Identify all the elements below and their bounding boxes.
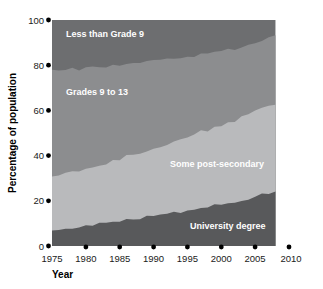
y-tick-label-100: 100 (28, 15, 44, 26)
band-label-university-degree: University degree (190, 221, 266, 231)
y-tick-dot-100 (46, 18, 51, 23)
x-tick-dot-1995 (185, 245, 190, 250)
y-tick-label-40: 40 (33, 150, 44, 161)
band-label-less-than-grade-9: Less than Grade 9 (66, 29, 144, 39)
y-tick-dot-40 (46, 153, 51, 158)
y-tick-label-20: 20 (33, 195, 44, 206)
y-tick-dot-0 (46, 244, 51, 249)
x-tick-dot-2005 (253, 245, 258, 250)
y-tick-label-60: 60 (33, 105, 44, 116)
y-tick-dot-60 (46, 108, 51, 113)
x-axis-title: Year (52, 269, 73, 280)
x-tick-label-1985: 1985 (109, 253, 130, 264)
x-tick-dot-1985 (117, 245, 122, 250)
plot-area (52, 20, 275, 246)
x-tick-label-1995: 1995 (177, 253, 198, 264)
y-tick-dot-80 (46, 63, 51, 68)
x-tick-label-2000: 2000 (211, 253, 232, 264)
y-axis-title: Percentage of population (7, 73, 18, 193)
x-tick-dot-2000 (219, 245, 224, 250)
x-tick-label-1990: 1990 (143, 253, 164, 264)
stacked-area-chart: Less than Grade 9 Grades 9 to 13 Some po… (0, 0, 323, 289)
y-tick-label-80: 80 (33, 60, 44, 71)
y-tick-label-0: 0 (39, 241, 44, 252)
y-tick-dot-20 (46, 198, 51, 203)
x-tick-label-1975: 1975 (41, 253, 62, 264)
x-tick-dot-1990 (151, 245, 156, 250)
x-tick-dot-1980 (84, 245, 89, 250)
x-tick-label-2010: 2010 (280, 253, 301, 264)
x-tick-label-2005: 2005 (245, 253, 266, 264)
band-label-grades-9-to-13: Grades 9 to 13 (66, 87, 128, 97)
x-tick-dot-2010 (287, 245, 292, 250)
x-tick-label-1980: 1980 (75, 253, 96, 264)
band-label-some-post-secondary: Some post-secondary (170, 159, 264, 169)
